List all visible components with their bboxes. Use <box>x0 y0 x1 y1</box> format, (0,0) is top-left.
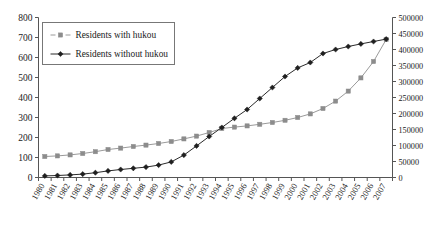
right-axis-tick-label: 450000 <box>399 30 424 39</box>
right-axis-tick-label: 50000 <box>399 158 419 167</box>
series-residents-with-hukou-point <box>81 151 85 155</box>
left-axis-tick-label: 800 <box>18 13 33 23</box>
series-residents-with-hukou-point <box>283 118 287 122</box>
series-residents-with-hukou-point <box>258 122 262 126</box>
series-residents-with-hukou-point <box>43 154 47 158</box>
series-residents-with-hukou-point <box>308 112 312 116</box>
right-axis-tick-label: 150000 <box>399 126 424 135</box>
category-axis-label: 2007 <box>371 181 389 201</box>
right-value-axis: 0500001000001500002000002500003000003500… <box>393 14 424 183</box>
series-residents-with-hukou-point <box>371 59 375 63</box>
series-residents-without-hukou-point <box>333 47 338 52</box>
left-axis-tick-label: 200 <box>18 133 33 143</box>
series-residents-without-hukou-point <box>131 166 136 171</box>
chart-legend: Residents with hukouResidents without hu… <box>43 23 175 65</box>
right-axis-tick-label: 300000 <box>399 78 424 87</box>
right-axis-tick-label: 200000 <box>399 110 424 119</box>
series-residents-with-hukou-point <box>232 125 236 129</box>
series-residents-without-hukou-point <box>93 170 98 175</box>
series-residents-with-hukou-point <box>119 146 123 150</box>
series-residents-without-hukou-point <box>118 167 123 172</box>
series-residents-with-hukou-point <box>334 99 338 103</box>
left-value-axis: 0100200300400500600700800 <box>18 13 38 183</box>
series-residents-without-hukou-point <box>80 172 85 177</box>
series-residents-without-hukou-point <box>358 41 363 46</box>
right-axis-tick-label: 400000 <box>399 46 424 55</box>
legend-item-label: Residents with hukou <box>76 30 157 40</box>
series-residents-without-hukou-point <box>169 159 174 164</box>
left-axis-tick-label: 600 <box>18 53 33 63</box>
line-chart: 0100200300400500600700800 05000010000015… <box>0 0 439 229</box>
series-residents-without-hukou-point <box>156 163 161 168</box>
series-residents-with-hukou-point <box>296 115 300 119</box>
series-residents-with-hukou-point <box>131 144 135 148</box>
series-residents-with-hukou-point <box>169 139 173 143</box>
right-axis-tick-label: 100000 <box>399 142 424 151</box>
left-axis-tick-label: 100 <box>18 153 33 163</box>
series-residents-with-hukou-point <box>68 153 72 157</box>
series-residents-with-hukou-point <box>55 154 59 158</box>
right-axis-tick-label: 250000 <box>399 94 424 103</box>
legend-item-label: Residents without hukou <box>76 49 169 59</box>
chart-container: 0100200300400500600700800 05000010000015… <box>0 0 439 229</box>
right-axis-tick-label: 0 <box>399 174 403 183</box>
category-axis: 1980198119821983198419851986198719881989… <box>29 178 392 202</box>
series-residents-without-hukou-point <box>68 172 73 177</box>
series-residents-without-hukou-point <box>105 168 110 173</box>
series-residents-with-hukou-point <box>359 76 363 80</box>
series-residents-without-hukou-point <box>371 39 376 44</box>
series-residents-with-hukou-point <box>346 89 350 93</box>
legend-marker-icon <box>58 33 62 37</box>
series-residents-without-hukou-point <box>143 165 148 170</box>
left-axis-tick-label: 300 <box>18 113 33 123</box>
left-axis-tick-label: 500 <box>18 73 33 83</box>
series-residents-with-hukou-point <box>106 147 110 151</box>
right-axis-tick-label: 500000 <box>399 14 424 23</box>
series-residents-with-hukou-point <box>245 124 249 128</box>
left-axis-tick-label: 0 <box>28 173 33 183</box>
series-residents-with-hukou-point <box>93 150 97 154</box>
series-residents-with-hukou-point <box>194 134 198 138</box>
left-axis-tick-label: 700 <box>18 33 33 43</box>
series-residents-with-hukou-point <box>157 141 161 145</box>
series-residents-with-hukou-point <box>182 137 186 141</box>
right-axis-tick-label: 350000 <box>399 62 424 71</box>
series-residents-with-hukou-point <box>144 143 148 147</box>
left-axis-tick-label: 400 <box>18 93 33 103</box>
series-residents-without-hukou-point <box>346 44 351 49</box>
series-residents-with-hukou-point <box>321 106 325 110</box>
series-residents-with-hukou-point <box>270 120 274 124</box>
